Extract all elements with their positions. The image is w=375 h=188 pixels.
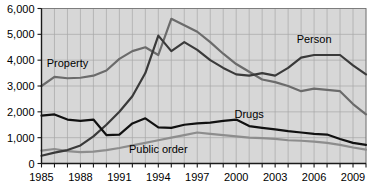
x-axis-tick-label: 1997 [185, 171, 209, 183]
x-axis-tick-label: 1994 [146, 171, 170, 183]
x-axis-tick-label: 2000 [224, 171, 248, 183]
chart-canvas: 01,0002,0003,0004,0005,0006,000 19851988… [0, 0, 375, 188]
x-axis-tick-label: 1988 [68, 171, 92, 183]
x-axis-tick-label: 2006 [302, 171, 326, 183]
x-axis-tick-label: 1991 [107, 171, 131, 183]
series-label-person: Person [297, 33, 332, 45]
series-label-public-order: Public order [129, 143, 188, 155]
x-axis-tick-label: 2009 [341, 171, 365, 183]
x-axis-tick-label: 1985 [29, 171, 53, 183]
line-chart: 01,0002,0003,0004,0005,0006,000 19851988… [0, 0, 375, 188]
y-axis-tick-label: 2,000 [7, 106, 35, 118]
y-axis-tick-label: 0 [28, 158, 34, 170]
y-axis-tick-labels: 01,0002,0003,0004,0005,0006,000 [7, 3, 35, 170]
series-label-drugs: Drugs [235, 108, 265, 120]
x-axis-tick-labels: 198519881991199419972000200320062009 [29, 171, 365, 183]
y-axis-tick-label: 1,000 [7, 132, 35, 144]
x-axis-tick-label: 2003 [263, 171, 287, 183]
y-axis-tick-label: 3,000 [7, 80, 35, 92]
y-axis-tick-label: 6,000 [7, 3, 35, 15]
y-axis-tick-label: 5,000 [7, 28, 35, 40]
series-label-property: Property [47, 57, 89, 69]
y-axis-tick-label: 4,000 [7, 54, 35, 66]
